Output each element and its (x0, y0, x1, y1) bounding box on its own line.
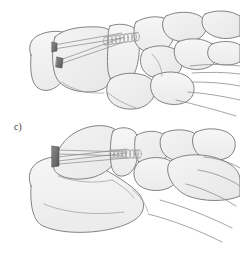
figure-root: c) (0, 0, 240, 254)
bone-metatarsal-3-dorsal (151, 72, 195, 105)
screw-head-a-lateral (52, 146, 59, 167)
panel-label: c) (14, 122, 22, 132)
bone-cuboid-dorsal (107, 73, 156, 109)
anatomical-illustration (0, 0, 240, 254)
screw-head-b-dorsal (56, 57, 63, 68)
bone-metatarsal-4-dorsal (163, 12, 207, 41)
bone-phalanx-2-dorsal (208, 41, 240, 65)
screw-head-a-dorsal (52, 42, 57, 52)
